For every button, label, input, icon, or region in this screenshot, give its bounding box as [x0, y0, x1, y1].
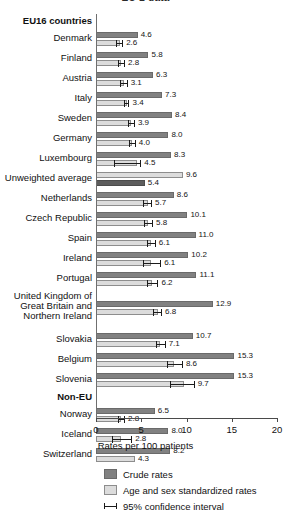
bar-row-label: Slovenia — [0, 374, 92, 384]
legend-swatch-standardized-icon — [104, 485, 117, 495]
value-label-standardized-luxembourg: 4.5 — [144, 159, 155, 167]
x-tick-label-0: 0 — [93, 424, 98, 435]
value-label-standardized-unweighted-average: 9.6 — [186, 171, 197, 179]
value-label-standardized-slovakia: 7.1 — [169, 340, 180, 348]
bar-row-label: Norway — [0, 409, 92, 419]
bar-row-label: Sweden — [0, 113, 92, 123]
bar-row-luxembourg: Luxembourg8.34.5 — [0, 149, 291, 169]
bars-austria: 6.33.1 — [96, 69, 291, 89]
bar-standardized-belgium — [96, 361, 174, 367]
bar-standardized-netherlands — [96, 200, 148, 206]
group-header-eu16-countries: EU16 countries — [0, 14, 291, 29]
ci-whisker-united-kingdom-of-great-britain-and-northern-ireland — [153, 309, 162, 316]
bar-row-italy: Italy7.33.4 — [0, 89, 291, 109]
value-label-crude-netherlands: 8.6 — [177, 191, 188, 199]
bar-row-label: Iceland — [0, 429, 92, 439]
bar-crude-luxembourg — [96, 152, 171, 158]
bar-row-austria: Austria6.33.1 — [0, 69, 291, 89]
value-label-standardized-ireland: 6.1 — [164, 259, 175, 267]
value-label-crude-spain: 11.0 — [199, 231, 214, 239]
bar-crude-united-kingdom-of-great-britain-and-northern-ireland — [96, 301, 213, 307]
ci-whisker-sweden — [128, 120, 135, 127]
value-label-standardized-portugal: 6.2 — [161, 279, 172, 287]
value-label-standardized-austria: 3.1 — [131, 79, 142, 87]
bar-row-germany: Germany8.04.0 — [0, 129, 291, 149]
plot-area: EU16 countriesDenmark4.62.6Finland5.82.8… — [0, 14, 291, 418]
ci-whisker-netherlands — [143, 200, 152, 207]
bar-standardized-czech-republic — [96, 220, 148, 226]
bar-row-portugal: Portugal11.16.2 — [0, 269, 291, 289]
legend-item-crude: Crude rates — [104, 466, 257, 482]
x-axis-title: Rates per 100 patients — [0, 440, 291, 451]
bar-row-slovakia: Slovakia10.77.1 — [0, 330, 291, 350]
bars-italy: 7.33.4 — [96, 89, 291, 109]
x-tick-label-15: 15 — [226, 424, 237, 435]
value-label-standardized-belgium: 8.6 — [186, 360, 197, 368]
x-tick-label-5: 5 — [139, 424, 144, 435]
bar-standardized-italy — [96, 100, 127, 106]
value-label-standardized-denmark: 2.6 — [126, 39, 137, 47]
bars-spain: 11.06.1 — [96, 229, 291, 249]
bars-sweden: 8.43.9 — [96, 109, 291, 129]
bar-row-label: Netherlands — [0, 193, 92, 203]
ci-whisker-norway — [118, 416, 125, 423]
bar-row-united-kingdom-of-great-britain-and-northern-ireland: United Kingdom of Great Britain and Nort… — [0, 289, 291, 330]
value-label-crude-slovakia: 10.7 — [196, 332, 212, 340]
bar-standardized-germany — [96, 140, 132, 146]
bar-row-label: Ireland — [0, 253, 92, 263]
value-label-crude-czech-republic: 10.1 — [190, 211, 206, 219]
bars-netherlands: 8.65.7 — [96, 189, 291, 209]
bars-finland: 5.82.8 — [96, 49, 291, 69]
value-label-standardized-germany: 4.0 — [139, 139, 150, 147]
bar-row-unweighted-average: Unweighted average9.65.4 — [0, 169, 291, 189]
value-label-crude-unweighted-average: 5.4 — [148, 179, 159, 187]
bar-crude-germany — [96, 132, 168, 138]
bar-row-sweden: Sweden8.43.9 — [0, 109, 291, 129]
bar-row-label: Luxembourg — [0, 153, 92, 163]
value-label-standardized-netherlands: 5.7 — [155, 199, 166, 207]
value-label-standardized-norway: 2.8 — [128, 415, 139, 423]
bar-crude-czech-republic — [96, 212, 187, 218]
x-tick-10 — [187, 418, 188, 422]
ci-whisker-austria — [120, 80, 127, 87]
group-header-label: Non-EU — [0, 392, 92, 402]
value-label-standardized-switzerland: 4.3 — [138, 455, 149, 463]
bar-row-label: Germany — [0, 133, 92, 143]
legend: Crude rates Age and sex standardized rat… — [104, 466, 257, 514]
bar-row-slovenia: Slovenia15.39.7 — [0, 370, 291, 390]
bar-crude-slovenia — [96, 373, 234, 379]
value-label-crude-portugal: 11.1 — [199, 271, 214, 279]
ci-whisker-spain — [147, 240, 156, 247]
bars-united-kingdom-of-great-britain-and-northern-ireland: 12.96.8 — [96, 289, 291, 330]
value-label-standardized-sweden: 3.9 — [138, 119, 149, 127]
x-tick-label-10: 10 — [181, 424, 192, 435]
x-tick-15 — [232, 418, 233, 422]
bars-unweighted-average: 9.65.4 — [96, 169, 291, 189]
bar-standardized-unweighted-average — [96, 172, 183, 178]
bar-row-label: Italy — [0, 93, 92, 103]
legend-swatch-ci-icon — [104, 501, 117, 511]
bar-row-label: Denmark — [0, 33, 92, 43]
bar-crude-austria — [96, 72, 153, 78]
legend-label-ci: 95% confidence interval — [123, 501, 224, 512]
bar-standardized-portugal — [96, 280, 152, 286]
group-header-non-eu: Non-EU — [0, 390, 291, 405]
bar-crude-sweden — [96, 112, 172, 118]
bar-row-label: Austria — [0, 73, 92, 83]
bar-row-label: Unweighted average — [0, 173, 92, 183]
legend-swatch-crude-icon — [104, 469, 117, 479]
value-label-standardized-united-kingdom-of-great-britain-and-northern-ireland: 6.8 — [165, 308, 176, 316]
bar-crude-finland — [96, 52, 148, 58]
bar-standardized-spain — [96, 240, 151, 246]
value-label-crude-germany: 8.0 — [171, 131, 182, 139]
bar-crude-italy — [96, 92, 162, 98]
x-tick-0 — [96, 418, 97, 422]
bars-luxembourg: 8.34.5 — [96, 149, 291, 169]
bar-standardized-united-kingdom-of-great-britain-and-northern-ireland — [96, 309, 158, 315]
ci-whisker-slovenia — [170, 381, 194, 388]
bar-row-label: Belgium — [0, 354, 92, 364]
bar-row-label: Portugal — [0, 273, 92, 283]
value-label-crude-luxembourg: 8.3 — [174, 151, 185, 159]
x-tick-20 — [277, 418, 278, 422]
bar-crude-iceland — [96, 428, 168, 434]
